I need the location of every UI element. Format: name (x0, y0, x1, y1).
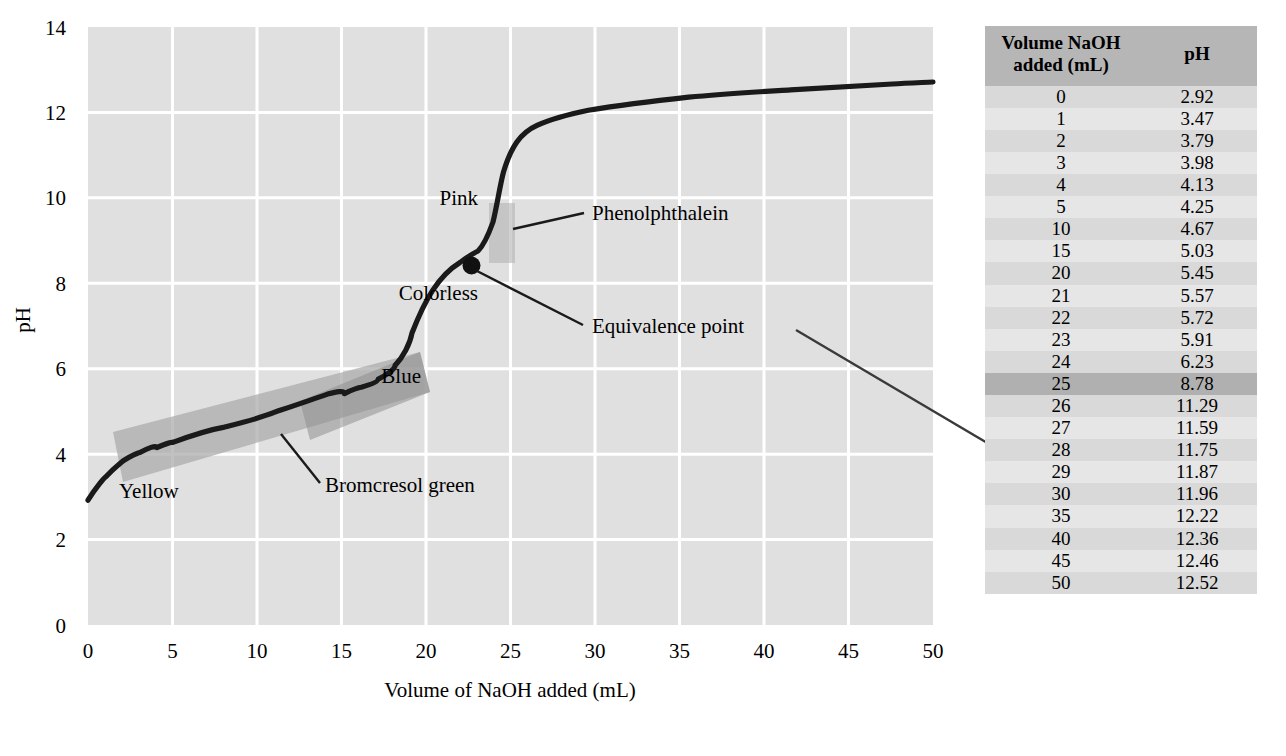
cell-ph: 12.52 (1137, 572, 1257, 594)
cell-volume: 15 (985, 240, 1137, 262)
table-row: 4012.36 (985, 528, 1257, 550)
y-tick-6: 6 (56, 357, 67, 381)
cell-ph: 6.23 (1137, 351, 1257, 373)
table-row: 23.79 (985, 130, 1257, 152)
y-tick-8: 8 (56, 272, 67, 296)
y-tick-10: 10 (45, 186, 66, 210)
cell-volume: 50 (985, 572, 1137, 594)
cell-ph: 2.92 (1137, 86, 1257, 108)
x-tick-20: 20 (416, 639, 437, 663)
x-tick-10: 10 (247, 639, 268, 663)
cell-ph: 5.45 (1137, 262, 1257, 284)
cell-ph: 4.67 (1137, 218, 1257, 240)
y-tick-14: 14 (45, 16, 67, 40)
cell-volume: 30 (985, 483, 1137, 505)
label-colorless: Colorless (399, 281, 478, 305)
y-tick-2: 2 (56, 528, 67, 552)
y-axis-title: pH (11, 307, 35, 333)
cell-ph: 11.75 (1137, 439, 1257, 461)
cell-ph: 5.57 (1137, 285, 1257, 307)
column-header-volume-line2: added (mL) (1013, 54, 1109, 75)
column-header-volume-line1: Volume NaOH (1001, 32, 1120, 53)
cell-volume: 10 (985, 218, 1137, 240)
x-tick-0: 0 (83, 639, 94, 663)
cell-volume: 5 (985, 196, 1137, 218)
cell-volume: 23 (985, 329, 1137, 351)
table-row: 258.78 (985, 373, 1257, 395)
cell-volume: 1 (985, 108, 1137, 130)
cell-volume: 25 (985, 373, 1137, 395)
cell-volume: 27 (985, 417, 1137, 439)
label-equivalence-point: Equivalence point (592, 314, 744, 338)
x-tick-15: 15 (331, 639, 352, 663)
table-row: 225.72 (985, 307, 1257, 329)
label-phenolphthalein: Phenolphthalein (592, 201, 729, 225)
cell-ph: 3.98 (1137, 152, 1257, 174)
table-row: 3512.22 (985, 505, 1257, 527)
x-tick-25: 25 (500, 639, 521, 663)
x-tick-5: 5 (167, 639, 178, 663)
table-row: 235.91 (985, 329, 1257, 351)
table-row: 4512.46 (985, 550, 1257, 572)
label-bromcresol-green: Bromcresol green (325, 473, 475, 497)
table-row: 104.67 (985, 218, 1257, 240)
cell-volume: 24 (985, 351, 1137, 373)
cell-ph: 5.03 (1137, 240, 1257, 262)
cell-volume: 0 (985, 86, 1137, 108)
table-row: 2811.75 (985, 439, 1257, 461)
cell-ph: 12.46 (1137, 550, 1257, 572)
x-axis-title: Volume of NaOH added (mL) (384, 678, 636, 702)
cell-ph: 12.36 (1137, 528, 1257, 550)
table-row: 155.03 (985, 240, 1257, 262)
cell-volume: 45 (985, 550, 1137, 572)
label-pink: Pink (439, 186, 478, 210)
table-row: 2911.87 (985, 461, 1257, 483)
cell-volume: 21 (985, 285, 1137, 307)
cell-volume: 28 (985, 439, 1137, 461)
cell-ph: 8.78 (1137, 373, 1257, 395)
table-row: 2711.59 (985, 417, 1257, 439)
column-header-ph: pH (1137, 26, 1257, 86)
cell-volume: 35 (985, 505, 1137, 527)
table-row: 205.45 (985, 262, 1257, 284)
cell-volume: 40 (985, 528, 1137, 550)
cell-ph: 5.72 (1137, 307, 1257, 329)
table-row: 3011.96 (985, 483, 1257, 505)
y-tick-4: 4 (56, 443, 67, 467)
cell-volume: 20 (985, 262, 1137, 284)
table-row: 5012.52 (985, 572, 1257, 594)
cell-ph: 11.29 (1137, 395, 1257, 417)
cell-volume: 4 (985, 174, 1137, 196)
cell-volume: 2 (985, 130, 1137, 152)
cell-ph: 11.96 (1137, 483, 1257, 505)
x-tick-45: 45 (838, 639, 859, 663)
column-header-volume: Volume NaOH added (mL) (985, 26, 1137, 86)
cell-volume: 26 (985, 395, 1137, 417)
cell-ph: 4.13 (1137, 174, 1257, 196)
table-row: 13.47 (985, 108, 1257, 130)
cell-ph: 12.22 (1137, 505, 1257, 527)
cell-ph: 11.87 (1137, 461, 1257, 483)
x-tick-35: 35 (669, 639, 690, 663)
y-tick-12: 12 (45, 101, 66, 125)
table-row: 02.92 (985, 86, 1257, 108)
table-row: 54.25 (985, 196, 1257, 218)
x-tick-30: 30 (585, 639, 606, 663)
cell-ph: 4.25 (1137, 196, 1257, 218)
x-tick-50: 50 (923, 639, 944, 663)
cell-ph: 3.79 (1137, 130, 1257, 152)
table-row: 44.13 (985, 174, 1257, 196)
cell-ph: 11.59 (1137, 417, 1257, 439)
table-row: 246.23 (985, 351, 1257, 373)
table-row: 33.98 (985, 152, 1257, 174)
cell-volume: 3 (985, 152, 1137, 174)
y-tick-0: 0 (56, 614, 67, 638)
titration-figure: 14 12 10 8 6 4 2 0 pH 0 5 10 15 20 25 30… (0, 0, 1286, 756)
cell-ph: 5.91 (1137, 329, 1257, 351)
label-yellow: Yellow (119, 479, 180, 503)
titration-data-table: Volume NaOH added (mL) pH 02.9213.4723.7… (985, 26, 1257, 594)
table-row: 215.57 (985, 285, 1257, 307)
table-body: 02.9213.4723.7933.9844.1354.25104.67155.… (985, 86, 1257, 594)
cell-volume: 22 (985, 307, 1137, 329)
table-row: 2611.29 (985, 395, 1257, 417)
